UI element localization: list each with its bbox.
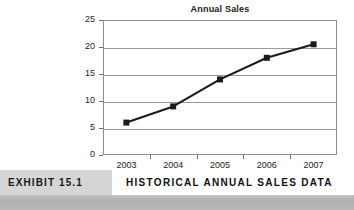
x-axis-tick-label: 2004 bbox=[150, 161, 196, 170]
y-axis-tick-label: 20 bbox=[67, 42, 95, 51]
x-axis-tick-mark bbox=[150, 155, 151, 159]
x-axis-tick-mark bbox=[290, 155, 291, 159]
y-axis-tick-mark bbox=[99, 74, 103, 75]
x-axis-tick-label: 2003 bbox=[103, 161, 149, 170]
y-axis-tick-mark bbox=[99, 155, 103, 156]
y-axis-tick-mark bbox=[99, 128, 103, 129]
data-point-marker bbox=[217, 76, 223, 82]
caption-band: EXHIBIT 15.1 HISTORICAL ANNUAL SALES DAT… bbox=[0, 170, 354, 195]
y-axis-tick-label: 0 bbox=[67, 150, 95, 159]
data-point-marker bbox=[123, 120, 129, 126]
x-axis-tick-label: 2006 bbox=[244, 161, 290, 170]
y-axis-tick-label: 10 bbox=[67, 96, 95, 105]
series-layer bbox=[0, 0, 354, 170]
data-point-marker bbox=[264, 55, 270, 61]
series-line-annual-sales bbox=[126, 44, 313, 122]
y-axis-tick-label: 5 bbox=[67, 123, 95, 132]
data-point-marker bbox=[311, 41, 317, 47]
x-axis-tick-mark bbox=[197, 155, 198, 159]
exhibit-title: HISTORICAL ANNUAL SALES DATA bbox=[126, 177, 333, 188]
y-axis-tick-label: 25 bbox=[67, 15, 95, 24]
y-axis-tick-mark bbox=[99, 101, 103, 102]
y-axis-tick-label: 15 bbox=[67, 69, 95, 78]
chart-figure: Annual Sales 051015202520032004200520062… bbox=[0, 0, 354, 170]
x-axis-tick-mark bbox=[243, 155, 244, 159]
y-axis-tick-mark bbox=[99, 20, 103, 21]
exhibit-number-label: EXHIBIT 15.1 bbox=[8, 177, 83, 188]
data-point-marker bbox=[170, 103, 176, 109]
page-footer-band bbox=[0, 195, 354, 210]
x-axis-tick-label: 2007 bbox=[291, 161, 337, 170]
x-axis-tick-label: 2005 bbox=[197, 161, 243, 170]
y-axis-tick-mark bbox=[99, 47, 103, 48]
